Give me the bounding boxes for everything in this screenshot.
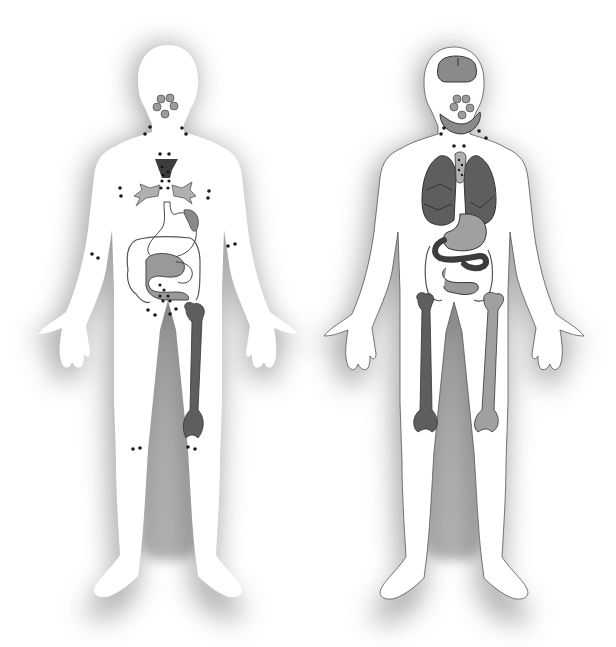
anatomy-illustration: Two human figures showing lymph nodes an… (0, 0, 616, 647)
brain (437, 56, 476, 82)
thymus-right (455, 152, 466, 183)
